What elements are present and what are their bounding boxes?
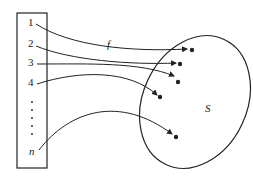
arrow-1 (36, 24, 187, 50)
codomain-points (158, 48, 194, 139)
arrow-2 (36, 46, 176, 63)
domain-label-3: 3 (28, 56, 34, 68)
ellipsis-dots (31, 101, 33, 135)
function-mapping-diagram: 1 2 3 4 n f S (0, 0, 253, 178)
function-label-f: f (107, 38, 112, 50)
mapping-arrows (36, 24, 187, 150)
arrow-3 (37, 64, 174, 76)
domain-label-1: 1 (28, 16, 34, 28)
domain-label-2: 2 (28, 37, 34, 49)
set-label-s: S (205, 102, 211, 114)
arrow-4 (37, 75, 157, 95)
arrow-n (39, 111, 172, 150)
domain-label-n: n (29, 145, 35, 157)
set-s-ellipse (119, 17, 253, 178)
domain-label-4: 4 (28, 76, 34, 88)
